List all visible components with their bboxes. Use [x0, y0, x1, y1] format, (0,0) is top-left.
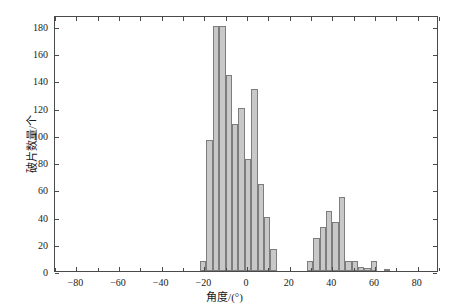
- x-tick-top: [375, 17, 376, 21]
- y-tick-label: 120: [18, 103, 48, 114]
- x-tick-top: [226, 17, 227, 21]
- x-tick: [98, 268, 99, 271]
- x-tick: [311, 268, 312, 271]
- x-tick-top: [76, 17, 77, 21]
- x-tick-label: 60: [369, 277, 379, 288]
- y-tick: [55, 246, 59, 247]
- x-tick-top: [55, 17, 56, 21]
- y-tick: [55, 82, 59, 83]
- y-tick: [55, 164, 59, 165]
- x-tick: [183, 268, 184, 271]
- x-tick: [332, 267, 333, 271]
- y-tick: [55, 219, 59, 220]
- x-tick-top: [268, 17, 269, 21]
- y-tick-label: 20: [18, 239, 48, 250]
- x-tick-label: −40: [153, 277, 169, 288]
- y-tick-right: [433, 219, 437, 220]
- y-tick-right: [433, 164, 437, 165]
- y-tick-label: 140: [18, 76, 48, 87]
- x-tick: [140, 268, 141, 271]
- x-tick: [396, 268, 397, 271]
- x-tick-top: [247, 17, 248, 21]
- x-tick-label: 0: [244, 277, 249, 288]
- y-tick-label: 0: [18, 267, 48, 278]
- x-tick: [268, 268, 269, 271]
- y-tick-label: 40: [18, 212, 48, 223]
- y-tick: [55, 28, 59, 29]
- y-tick-right: [433, 28, 437, 29]
- x-tick-label: −60: [110, 277, 126, 288]
- x-tick-label: 40: [326, 277, 336, 288]
- y-tick-right: [433, 137, 437, 138]
- histogram-bar: [270, 249, 276, 271]
- chart-page: −80−60−40−200204060800204060801001201401…: [0, 0, 449, 308]
- y-tick-right: [433, 82, 437, 83]
- x-tick-top: [332, 17, 333, 21]
- y-axis-title: 破片数量/个: [23, 115, 39, 173]
- y-tick-right: [433, 55, 437, 56]
- x-tick-label: −20: [196, 277, 212, 288]
- histogram-bar: [371, 261, 377, 271]
- x-tick: [162, 267, 163, 271]
- y-tick-right: [433, 273, 437, 274]
- x-tick: [247, 267, 248, 271]
- x-tick: [76, 267, 77, 271]
- y-tick-right: [433, 191, 437, 192]
- x-tick-top: [140, 17, 141, 21]
- x-tick: [418, 267, 419, 271]
- y-tick-right: [433, 246, 437, 247]
- x-tick-top: [439, 17, 440, 21]
- x-tick: [375, 267, 376, 271]
- x-tick: [226, 268, 227, 271]
- x-tick-label: −80: [68, 277, 84, 288]
- x-tick: [439, 268, 440, 271]
- y-tick-right: [433, 110, 437, 111]
- x-tick-top: [418, 17, 419, 21]
- y-tick: [55, 191, 59, 192]
- y-tick: [55, 137, 59, 138]
- x-tick: [55, 268, 56, 271]
- y-tick: [55, 110, 59, 111]
- x-axis-title: 角度/(°): [0, 288, 449, 304]
- y-tick-label: 160: [18, 49, 48, 60]
- histogram-bar: [384, 269, 390, 271]
- x-tick-top: [290, 17, 291, 21]
- x-tick-top: [204, 17, 205, 21]
- x-tick-label: 80: [412, 277, 422, 288]
- x-tick-top: [98, 17, 99, 21]
- x-tick-top: [162, 17, 163, 21]
- x-tick-top: [183, 17, 184, 21]
- plot-area: [54, 16, 438, 272]
- x-tick: [290, 267, 291, 271]
- histogram-bars: [55, 17, 437, 271]
- y-tick: [55, 55, 59, 56]
- histogram-bar: [339, 197, 345, 271]
- y-tick-label: 60: [18, 185, 48, 196]
- x-tick-top: [354, 17, 355, 21]
- y-tick: [55, 273, 59, 274]
- x-tick-top: [396, 17, 397, 21]
- x-tick: [354, 268, 355, 271]
- x-tick: [119, 267, 120, 271]
- x-tick-top: [311, 17, 312, 21]
- x-tick-top: [119, 17, 120, 21]
- x-tick: [204, 267, 205, 271]
- x-tick-label: 20: [284, 277, 294, 288]
- y-tick-label: 180: [18, 21, 48, 32]
